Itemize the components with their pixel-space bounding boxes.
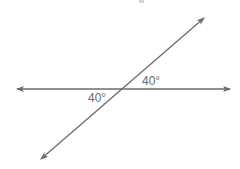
intersecting-lines-diagram [0,0,240,169]
cropped-text-fragment [139,0,144,3]
angle-label-upper-right: 40° [142,75,160,87]
angle-label-lower-left: 40° [88,92,106,104]
